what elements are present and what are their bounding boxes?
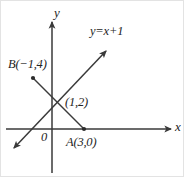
- origin-label: 0: [41, 131, 47, 144]
- coordinate-plane-figure: y x y=x+1 B(−1,4) (1,2) 0 A(3,0): [0, 0, 184, 177]
- y-axis-label: y: [54, 6, 60, 19]
- point-b-marker: [31, 76, 35, 80]
- intersection-point-label: (1,2): [65, 96, 88, 109]
- point-a-marker: [82, 127, 86, 131]
- point-a-label: A(3,0): [66, 136, 96, 149]
- line-equation-label: y=x+1: [90, 25, 123, 38]
- x-axis-label: x: [175, 120, 181, 133]
- point-b-label: B(−1,4): [8, 58, 47, 71]
